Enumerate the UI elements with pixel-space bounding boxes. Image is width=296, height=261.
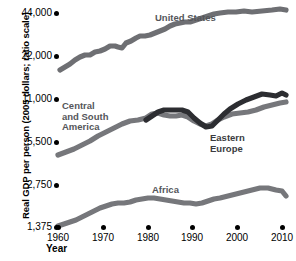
y-tick-dot-44000 bbox=[54, 11, 59, 16]
x-tick-dot-2000 bbox=[235, 225, 240, 230]
x-axis-title: Year bbox=[46, 243, 67, 254]
y-tick-label-1375: 1,375 bbox=[8, 221, 52, 232]
x-tick-dot-1990 bbox=[190, 225, 195, 230]
x-tick-dot-2010 bbox=[280, 225, 285, 230]
x-tick-dot-1970 bbox=[101, 225, 106, 230]
x-tick-label-1970: 1970 bbox=[83, 232, 123, 243]
y-tick-label-44000: 44,000 bbox=[8, 7, 52, 18]
x-tick-label-2010: 2010 bbox=[262, 232, 296, 243]
x-tick-label-1960: 1960 bbox=[38, 232, 78, 243]
y-tick-dot-11000 bbox=[54, 97, 59, 102]
series-line-eastern-europe bbox=[146, 93, 286, 127]
series-label-united-states: United States bbox=[155, 13, 216, 24]
x-tick-label-2000: 2000 bbox=[217, 232, 257, 243]
y-tick-dot-2750 bbox=[54, 183, 59, 188]
y-axis-title: Real GDP per person (2005 dollars; ratio… bbox=[20, 0, 31, 236]
chart-figure: Real GDP per person (2005 dollars; ratio… bbox=[0, 0, 296, 261]
series-label-central-south-america: Central and South America bbox=[62, 101, 108, 133]
series-label-eastern-europe: Eastern Europe bbox=[210, 133, 245, 154]
y-tick-dot-5500 bbox=[54, 140, 59, 145]
x-tick-label-1980: 1980 bbox=[128, 232, 168, 243]
y-tick-label-2750: 2,750 bbox=[8, 179, 52, 190]
y-tick-label-22000: 22,000 bbox=[8, 50, 52, 61]
y-tick-dot-22000 bbox=[54, 54, 59, 59]
y-tick-label-11000: 11,000 bbox=[8, 93, 52, 104]
x-tick-dot-1960 bbox=[56, 225, 61, 230]
x-tick-dot-1980 bbox=[146, 225, 151, 230]
y-tick-label-5500: 5,500 bbox=[8, 136, 52, 147]
x-tick-label-1990: 1990 bbox=[172, 232, 212, 243]
series-label-africa: Africa bbox=[152, 185, 179, 196]
